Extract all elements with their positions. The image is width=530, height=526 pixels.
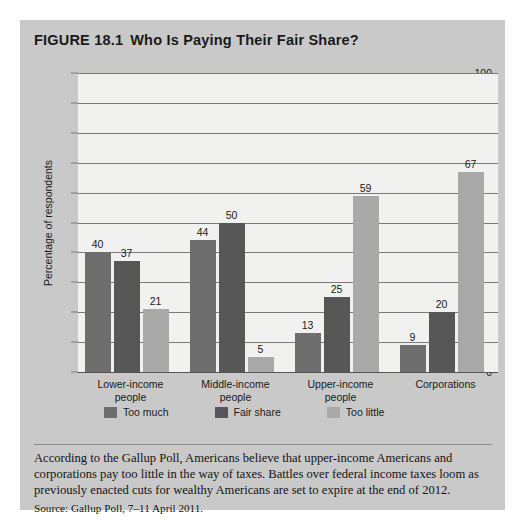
- caption-body: According to the Gallup Poll, Americans …: [34, 451, 479, 497]
- x-axis-category-label: Corporations: [393, 378, 498, 391]
- y-axis-tick-mark: [71, 73, 78, 74]
- bar: 59: [353, 196, 379, 372]
- plot-area: 4037214450513255992067: [78, 73, 498, 372]
- figure-title-text: Who Is Paying Their Fair Share?: [130, 32, 359, 48]
- figure-box: FIGURE 18.1Who Is Paying Their Fair Shar…: [20, 20, 505, 510]
- y-axis-tick-mark: [71, 162, 78, 163]
- x-axis-category-label: Middle-incomepeople: [183, 378, 288, 404]
- bar-value-label: 5: [258, 343, 264, 355]
- y-axis-tick-mark: [71, 252, 78, 253]
- bar: 13: [295, 333, 321, 372]
- gridline: [78, 282, 498, 283]
- x-axis-category-label-line: people: [183, 391, 288, 404]
- chart-panel: Percentage of respondents 01020304050607…: [34, 56, 492, 438]
- bar: 37: [114, 261, 140, 372]
- x-axis-category-label-line: Corporations: [393, 378, 498, 391]
- legend-label: Too much: [123, 406, 169, 418]
- bar-value-label: 9: [410, 331, 416, 343]
- caption-divider: [34, 444, 492, 445]
- legend-swatch: [104, 407, 117, 418]
- y-axis-tick-mark: [71, 222, 78, 223]
- figure-number: FIGURE 18.1: [34, 32, 123, 48]
- legend-item[interactable]: Fair share: [215, 406, 281, 418]
- bar-value-label: 20: [436, 298, 448, 310]
- gridline: [78, 103, 498, 104]
- legend-swatch: [215, 407, 228, 418]
- gridline: [78, 73, 498, 74]
- figure-title: FIGURE 18.1Who Is Paying Their Fair Shar…: [34, 32, 359, 48]
- y-axis-tick-mark: [71, 282, 78, 283]
- y-axis-tick-mark: [71, 312, 78, 313]
- gridline: [78, 252, 498, 253]
- bar: 5: [248, 357, 274, 372]
- y-axis-tick-mark: [71, 342, 78, 343]
- bar: 40: [85, 252, 111, 372]
- gridline: [78, 223, 498, 224]
- gridline: [78, 163, 498, 164]
- x-axis-category-label: Upper-incomepeople: [288, 378, 393, 404]
- x-axis-category-label-line: Middle-income: [183, 378, 288, 391]
- bar-value-label: 50: [226, 209, 238, 221]
- x-axis-category-label-line: people: [78, 391, 183, 404]
- bar: 25: [324, 297, 350, 372]
- bar-value-label: 44: [197, 226, 209, 238]
- chart-legend: Too muchFair shareToo little: [104, 406, 384, 418]
- bar: 9: [400, 345, 426, 372]
- gridline: [78, 133, 498, 134]
- bar-value-label: 40: [92, 238, 104, 250]
- legend-label: Fair share: [234, 406, 281, 418]
- bar-value-label: 59: [360, 182, 372, 194]
- bar: 21: [143, 309, 169, 372]
- bar-value-label: 13: [302, 319, 314, 331]
- gridline: [78, 193, 498, 194]
- y-axis-tick-mark: [71, 192, 78, 193]
- legend-item[interactable]: Too little: [327, 406, 385, 418]
- legend-item[interactable]: Too much: [104, 406, 169, 418]
- x-axis-category-label-line: Lower-income: [78, 378, 183, 391]
- bar-value-label: 21: [150, 295, 162, 307]
- legend-swatch: [327, 407, 340, 418]
- bar-value-label: 25: [331, 283, 343, 295]
- bar-value-label: 67: [465, 158, 477, 170]
- bar-value-label: 37: [121, 247, 133, 259]
- x-axis-category-label: Lower-incomepeople: [78, 378, 183, 404]
- gridline: [78, 372, 498, 373]
- x-axis-category-label-line: people: [288, 391, 393, 404]
- x-axis-category-label-line: Upper-income: [288, 378, 393, 391]
- caption-source: Source: Gallup Poll, 7–11 April 2011.: [34, 500, 496, 516]
- y-axis-tick-mark: [71, 372, 78, 373]
- y-axis-tick-mark: [71, 132, 78, 133]
- bar: 50: [219, 223, 245, 373]
- y-axis-tick-mark: [71, 102, 78, 103]
- bar: 44: [190, 240, 216, 372]
- bar: 67: [458, 172, 484, 372]
- y-axis-title: Percentage of respondents: [42, 159, 54, 285]
- legend-label: Too little: [346, 406, 385, 418]
- bar: 20: [429, 312, 455, 372]
- figure-caption: According to the Gallup Poll, Americans …: [34, 450, 496, 516]
